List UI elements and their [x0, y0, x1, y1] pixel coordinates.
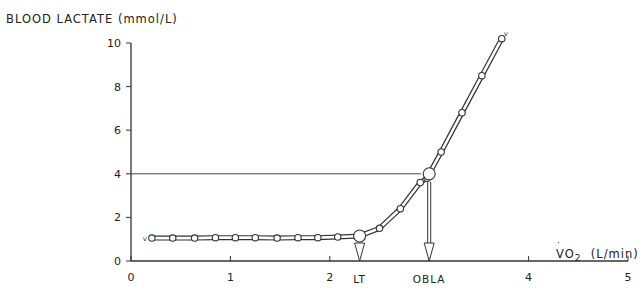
data-point	[232, 234, 238, 240]
x-tick-label: 0	[128, 271, 135, 284]
data-point	[376, 225, 382, 231]
x-tick-label: 4	[525, 271, 532, 284]
y-tick-label: 4	[114, 168, 121, 181]
data-point	[274, 235, 280, 241]
data-point	[335, 234, 341, 240]
data-point	[479, 73, 485, 79]
data-point	[212, 234, 218, 240]
lactate-chart: 012450246810LTOBLAvv	[0, 0, 642, 294]
y-tick-label: 0	[114, 255, 121, 268]
lactate-curve-inner	[152, 39, 502, 238]
data-point	[191, 235, 197, 241]
data-point	[459, 110, 465, 116]
y-tick-label: 6	[114, 124, 121, 137]
lt-arrow-head	[355, 243, 365, 261]
start-marker: v	[143, 235, 147, 243]
data-point	[397, 205, 403, 211]
x-tick-label: 5	[625, 271, 632, 284]
y-tick-label: 8	[114, 81, 121, 94]
y-tick-label: 2	[114, 211, 121, 224]
data-point	[170, 235, 176, 241]
data-point	[295, 234, 301, 240]
data-point	[438, 149, 444, 155]
obla-arrow-head	[424, 243, 434, 261]
y-tick-label: 10	[107, 37, 121, 50]
data-point	[417, 179, 423, 185]
obla-point	[423, 168, 435, 180]
x-tick-label: 2	[326, 271, 333, 284]
end-marker: v	[504, 30, 508, 38]
lt-label: LT	[353, 273, 366, 285]
data-point	[315, 234, 321, 240]
lt-point	[354, 230, 366, 242]
x-tick-label: 1	[227, 271, 234, 284]
data-point	[149, 235, 155, 241]
obla-label: OBLA	[413, 273, 446, 285]
data-point	[252, 234, 258, 240]
